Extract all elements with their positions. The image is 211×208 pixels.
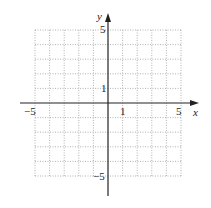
x-tick-neg5: −5 (24, 105, 36, 117)
x-axis-label: x (192, 106, 198, 118)
x-axis (20, 100, 199, 106)
y-tick-5: 5 (100, 23, 106, 35)
y-arrow-icon (105, 13, 111, 22)
coordinate-plane: x y −5 1 5 5 1 −5 (0, 0, 211, 208)
x-tick-1: 1 (120, 105, 126, 117)
y-axis (105, 13, 111, 196)
y-axis-label: y (96, 10, 102, 22)
y-tick-1: 1 (101, 82, 107, 94)
x-tick-5: 5 (176, 105, 182, 117)
y-tick-neg5: −5 (93, 170, 105, 182)
